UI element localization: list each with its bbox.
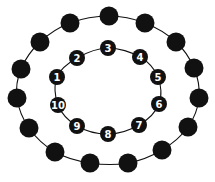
node-circle (153, 141, 172, 160)
node-circle (190, 89, 209, 108)
node-label: 2 (74, 53, 81, 64)
outer-ring-node-7 (153, 141, 172, 160)
outer-ring-node-14 (31, 33, 50, 52)
node-label: 5 (155, 72, 162, 83)
outer-ring-node-10 (46, 143, 65, 162)
node-circle (136, 14, 155, 33)
inner-ring-node-7: 7 (131, 117, 147, 133)
node-circle (81, 154, 100, 173)
inner-ring-node-5: 5 (150, 69, 166, 85)
node-circle (20, 119, 39, 138)
outer-ring-node-15 (61, 14, 80, 33)
node-circle (46, 143, 65, 162)
inner-ring-node-2: 2 (69, 50, 85, 66)
node-label: 8 (105, 129, 112, 140)
node-circle (185, 59, 204, 78)
outer-ring (8, 7, 209, 173)
outer-ring-node-6 (179, 118, 198, 137)
inner-ring-node-9: 9 (69, 118, 85, 134)
outer-ring-node-13 (12, 60, 31, 79)
inner-ring-node-3: 3 (100, 40, 116, 56)
outer-ring-node-8 (119, 154, 138, 173)
inner-ring-node-4: 4 (132, 49, 148, 65)
outer-ring-node-3 (167, 33, 186, 52)
node-label: 6 (156, 99, 163, 110)
node-circle (167, 33, 186, 52)
node-label: 9 (74, 121, 81, 132)
node-circle (61, 14, 80, 33)
node-circle (8, 89, 27, 108)
node-circle (100, 7, 119, 26)
two-ring-node-diagram: 12345678910 (0, 0, 215, 182)
node-label: 7 (136, 120, 143, 131)
outer-ring-node-1 (100, 7, 119, 26)
inner-ring-node-1: 1 (49, 69, 65, 85)
inner-ring-node-10: 10 (50, 97, 66, 113)
outer-ring-node-12 (8, 89, 27, 108)
node-circle (12, 60, 31, 79)
outer-ring-node-9 (81, 154, 100, 173)
node-label: 1 (54, 72, 61, 83)
outer-ring-node-4 (185, 59, 204, 78)
node-circle (119, 154, 138, 173)
outer-ring-node-11 (20, 119, 39, 138)
outer-ring-node-5 (190, 89, 209, 108)
outer-ring-node-2 (136, 14, 155, 33)
node-label: 10 (51, 100, 65, 111)
node-circle (179, 118, 198, 137)
node-label: 4 (137, 52, 144, 63)
inner-ring-node-8: 8 (100, 126, 116, 142)
node-circle (31, 33, 50, 52)
node-label: 3 (105, 43, 112, 54)
inner-ring-node-6: 6 (151, 96, 167, 112)
inner-ring: 12345678910 (49, 40, 167, 142)
